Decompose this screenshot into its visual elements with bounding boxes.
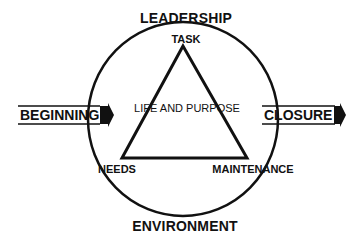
environment-label: ENVIRONMENT xyxy=(132,218,238,234)
cycle-circle xyxy=(88,22,278,216)
life-and-purpose-label: LIFE AND PURPOSE xyxy=(134,102,240,114)
needs-label: NEEDS xyxy=(98,163,136,175)
beginning-label: BEGINNING xyxy=(20,107,99,123)
closure-label: CLOSURE xyxy=(264,107,332,123)
task-label: TASK xyxy=(171,33,200,45)
leadership-label: LEADERSHIP xyxy=(140,10,232,26)
maintenance-label: MAINTENANCE xyxy=(212,163,293,175)
